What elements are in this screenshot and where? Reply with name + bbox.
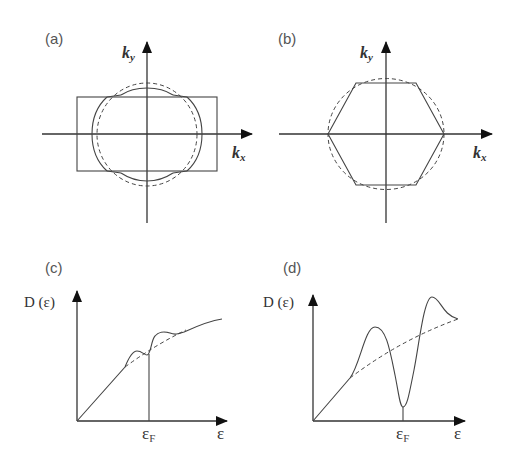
fermi-energy-label: εF xyxy=(396,424,409,444)
free-electron-dos xyxy=(350,319,458,378)
panel-c: (c) D (ε) εF ε xyxy=(24,259,227,444)
figure: (a) ky kx (b) ky kx (c) D (ε) εF xyxy=(0,0,518,465)
kx-label: kx xyxy=(473,144,487,163)
energy-label: ε xyxy=(217,424,224,443)
panel-b-label: (b) xyxy=(278,30,296,47)
energy-label: ε xyxy=(454,424,461,443)
panel-a: (a) ky kx xyxy=(42,30,252,223)
fermi-energy-label: εF xyxy=(142,424,155,444)
panel-d-label: (d) xyxy=(283,259,301,276)
panel-a-label: (a) xyxy=(45,30,63,47)
dos-axis-label: D (ε) xyxy=(24,294,55,311)
ky-label: ky xyxy=(122,44,135,63)
panel-d: (d) D (ε) εF ε xyxy=(263,259,465,444)
panel-b: (b) ky kx xyxy=(278,30,492,223)
panel-c-label: (c) xyxy=(45,259,63,276)
kx-label: kx xyxy=(232,144,246,163)
dos-axis-label: D (ε) xyxy=(263,294,294,311)
dos-curve xyxy=(313,297,458,421)
ky-label: ky xyxy=(360,44,373,63)
